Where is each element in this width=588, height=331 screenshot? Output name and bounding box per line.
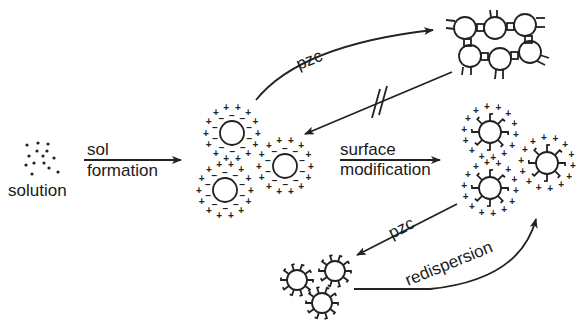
svg-text:+: + <box>562 139 568 150</box>
svg-text:+: + <box>199 173 205 184</box>
svg-text:+: + <box>199 196 205 207</box>
svg-text:+: + <box>495 158 501 169</box>
svg-text:+: + <box>308 161 314 172</box>
svg-text:+: + <box>463 191 469 202</box>
svg-text:+: + <box>513 129 519 140</box>
pzc-top-label: pzc <box>293 46 325 74</box>
svg-text:+: + <box>238 164 244 175</box>
svg-text:+: + <box>530 136 536 147</box>
svg-text:–: – <box>299 155 305 166</box>
svg-text:–: – <box>272 175 278 186</box>
svg-text:+: + <box>558 179 564 190</box>
svg-text:+: + <box>206 116 212 127</box>
svg-text:+: + <box>479 207 485 218</box>
svg-text:+: + <box>206 164 212 175</box>
svg-text:+: + <box>259 149 265 160</box>
svg-text:+: + <box>463 135 469 146</box>
svg-text:+: + <box>520 166 526 177</box>
modified-sol-particles: ++++++++++++++++++++++++++++++++++++++++… <box>461 101 576 220</box>
svg-text:–: – <box>205 190 211 201</box>
svg-text:+: + <box>266 140 272 151</box>
svg-text:+: + <box>213 107 219 118</box>
svg-text:+: + <box>252 116 258 127</box>
svg-text:–: – <box>212 199 218 210</box>
svg-text:+: + <box>248 185 254 196</box>
svg-text:+: + <box>216 159 222 170</box>
svg-text:+: + <box>245 196 251 207</box>
svg-text:–: – <box>211 170 217 181</box>
svg-text:–: – <box>212 122 218 133</box>
svg-text:+: + <box>469 145 475 156</box>
svg-text:+: + <box>206 139 212 150</box>
svg-text:+: + <box>203 128 209 139</box>
diagram-canvas: solution sol formation ––––––––––+++++++… <box>0 0 588 331</box>
svg-text:–: – <box>265 155 271 166</box>
svg-text:+: + <box>228 159 234 170</box>
svg-text:+: + <box>256 161 262 172</box>
svg-text:+: + <box>522 144 528 155</box>
svg-text:+: + <box>196 185 202 196</box>
svg-text:+: + <box>505 108 511 119</box>
svg-text:+: + <box>298 140 304 151</box>
svg-text:+: + <box>259 172 265 183</box>
svg-text:+: + <box>235 153 241 164</box>
svg-text:–: – <box>239 179 245 190</box>
svg-text:+: + <box>238 205 244 216</box>
svg-text:+: + <box>276 186 282 197</box>
svg-text:–: – <box>218 113 224 124</box>
svg-text:+: + <box>495 102 501 113</box>
gel-network <box>446 10 549 79</box>
modification-label: modification <box>340 160 431 179</box>
svg-text:+: + <box>252 139 258 150</box>
pzc-gel-arrow <box>256 30 433 100</box>
svg-text:–: – <box>212 133 218 144</box>
svg-text:+: + <box>505 164 511 175</box>
svg-text:+: + <box>568 149 574 160</box>
svg-text:+: + <box>469 201 475 212</box>
svg-text:+: + <box>465 113 471 124</box>
svg-text:+: + <box>235 102 241 113</box>
svg-text:+: + <box>305 172 311 183</box>
svg-text:+: + <box>511 118 517 129</box>
svg-text:+: + <box>461 124 467 135</box>
svg-text:+: + <box>305 149 311 160</box>
solution-label: solution <box>8 181 67 200</box>
svg-text:+: + <box>518 155 524 166</box>
svg-text:+: + <box>566 171 572 182</box>
svg-text:–: – <box>265 166 271 177</box>
svg-text:+: + <box>490 208 496 219</box>
svg-text:+: + <box>473 105 479 116</box>
svg-text:+: + <box>266 181 272 192</box>
svg-text:+: + <box>255 128 261 139</box>
svg-text:+: + <box>473 161 479 172</box>
svg-text:–: – <box>219 142 225 153</box>
svg-text:+: + <box>245 173 251 184</box>
svg-text:+: + <box>547 183 553 194</box>
svg-text:–: – <box>205 179 211 190</box>
svg-text:–: – <box>246 122 252 133</box>
svg-text:+: + <box>223 102 229 113</box>
svg-text:+: + <box>513 185 519 196</box>
svg-text:–: – <box>271 146 277 157</box>
svg-text:+: + <box>536 182 542 193</box>
svg-text:+: + <box>276 135 282 146</box>
svg-text:+: + <box>552 133 558 144</box>
svg-text:+: + <box>509 140 515 151</box>
svg-text:+: + <box>245 107 251 118</box>
formation-label: formation <box>87 161 158 180</box>
sol-label: sol <box>87 140 109 159</box>
svg-text:+: + <box>245 148 251 159</box>
svg-text:+: + <box>288 186 294 197</box>
modified-aggregate <box>281 255 351 319</box>
charged-sol-particles: ––––––––––++++++++++++++––––––––––++++++… <box>196 102 314 221</box>
svg-text:+: + <box>465 169 471 180</box>
svg-text:+: + <box>501 148 507 159</box>
svg-text:+: + <box>288 135 294 146</box>
solution-dots-icon <box>24 141 59 175</box>
svg-text:+: + <box>213 148 219 159</box>
svg-text:+: + <box>501 204 507 215</box>
svg-text:+: + <box>541 132 547 143</box>
svg-text:+: + <box>570 160 576 171</box>
svg-text:+: + <box>228 210 234 221</box>
redispersion-label: redispersion <box>402 237 495 289</box>
